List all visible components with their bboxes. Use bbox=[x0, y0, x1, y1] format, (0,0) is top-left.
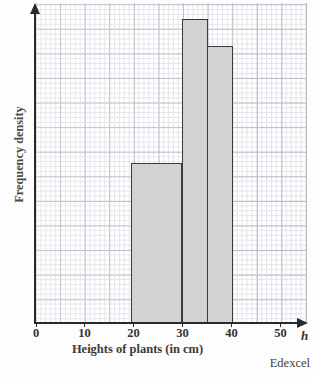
x-tick-label-40: 40 bbox=[217, 326, 247, 341]
x-tick-label-50: 50 bbox=[266, 326, 296, 341]
histogram-figure: 0 10 20 30 40 50 h Heights of plants (in… bbox=[0, 0, 318, 377]
histogram-bar-30-35 bbox=[182, 19, 208, 323]
x-tick-label-0: 0 bbox=[21, 326, 51, 341]
x-tick-label-10: 10 bbox=[70, 326, 100, 341]
y-axis-title: Frequency density bbox=[12, 75, 27, 235]
y-axis-line bbox=[34, 12, 36, 324]
histogram-bar-20-30 bbox=[131, 163, 182, 323]
x-axis-arrowhead-icon bbox=[297, 318, 308, 328]
histogram-bar-35-40 bbox=[207, 46, 234, 323]
x-tick-label-20: 20 bbox=[119, 326, 149, 341]
x-axis-title: Heights of plants (in cm) bbox=[0, 342, 275, 357]
source-credit: Edexcel bbox=[270, 356, 310, 371]
x-axis-variable-symbol: h bbox=[301, 328, 308, 344]
x-axis-line bbox=[34, 322, 302, 324]
y-axis-arrowhead-icon bbox=[30, 3, 40, 14]
x-tick-label-30: 30 bbox=[168, 326, 198, 341]
